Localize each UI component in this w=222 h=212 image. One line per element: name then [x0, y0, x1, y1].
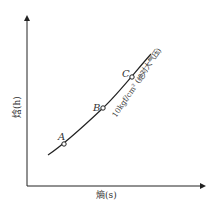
point-b-marker — [101, 106, 105, 110]
y-axis-label: 焓(h) — [11, 96, 22, 118]
hs-diagram: A B C 10kgf/cm² (绝对大气压) 焓(h) 熵(s) — [0, 0, 222, 212]
point-a-label: A — [57, 131, 65, 142]
point-b-label: B — [92, 102, 100, 113]
curve-label: 10kgf/cm² (绝对大气压) — [109, 46, 163, 119]
x-axis-label: 熵(s) — [96, 189, 117, 200]
point-a-marker — [62, 142, 66, 146]
point-c-label: C — [122, 68, 130, 79]
